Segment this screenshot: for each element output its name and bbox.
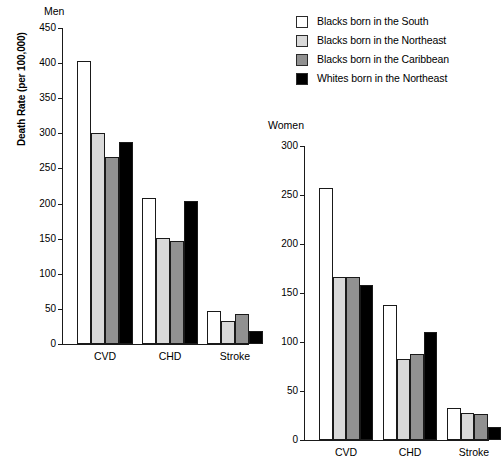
- y-axis-tick: [300, 440, 305, 441]
- y-axis-tick: [300, 146, 305, 147]
- y-axis-tick: [58, 133, 63, 134]
- chart-legend: Blacks born in the SouthBlacks born in t…: [296, 12, 496, 88]
- legend-item-label: Blacks born in the Caribbean: [317, 54, 449, 65]
- legend-item: Blacks born in the South: [296, 12, 496, 31]
- y-axis-tick-label: 400: [39, 58, 56, 68]
- bar-women-cvd-1: [333, 277, 347, 440]
- y-axis-tick-label: 250: [281, 190, 298, 200]
- legend-item: Blacks born in the Northeast: [296, 31, 496, 50]
- panel-title-men: Men: [44, 6, 64, 17]
- legend-swatch-white_ne: [296, 73, 308, 85]
- legend-swatch-black_ne: [296, 35, 308, 47]
- legend-swatch-caribbean: [296, 54, 308, 66]
- bar-women-stroke-1: [461, 413, 475, 440]
- bar-men-chd-0: [142, 198, 156, 344]
- legend-swatch-south: [296, 16, 308, 28]
- bar-women-cvd-2: [346, 277, 360, 440]
- legend-item-label: Blacks born in the South: [317, 16, 428, 27]
- bar-women-stroke-2: [474, 414, 488, 440]
- y-axis-tick-label: 0: [50, 339, 56, 349]
- y-axis-tick-label: 200: [39, 199, 56, 209]
- bar-women-stroke-3: [488, 427, 502, 440]
- x-axis-category-label: Stroke: [207, 351, 263, 362]
- bar-men-chd-1: [156, 238, 170, 344]
- y-axis-tick: [58, 309, 63, 310]
- y-axis-tick-label: 250: [39, 163, 56, 173]
- y-axis-tick-label: 0: [292, 435, 298, 445]
- bar-men-stroke-0: [207, 311, 221, 344]
- y-axis-tick: [58, 28, 63, 29]
- y-axis-tick-label: 200: [281, 239, 298, 249]
- bar-women-stroke-0: [447, 408, 461, 440]
- bar-group-stroke: Stroke: [447, 146, 501, 440]
- bar-men-cvd-0: [77, 61, 91, 344]
- y-axis-tick: [300, 244, 305, 245]
- bar-women-cvd-0: [319, 188, 333, 440]
- y-axis-tick: [58, 204, 63, 205]
- y-axis-tick-label: 150: [39, 234, 56, 244]
- y-axis-tick-label: 150: [281, 288, 298, 298]
- y-axis-tick-label: 50: [287, 386, 298, 396]
- y-axis-tick: [58, 168, 63, 169]
- y-axis-tick: [58, 344, 63, 345]
- x-axis-category-label: CVD: [319, 447, 373, 458]
- bar-men-stroke-2: [235, 314, 249, 344]
- y-axis-tick-label: 350: [39, 93, 56, 103]
- bar-group-cvd: CVD: [77, 28, 133, 344]
- bar-men-chd-3: [184, 201, 198, 344]
- bar-men-stroke-1: [221, 321, 235, 344]
- bar-group-chd: CHD: [142, 28, 198, 344]
- x-axis-category-label: Stroke: [447, 447, 501, 458]
- bar-women-chd-3: [424, 332, 438, 440]
- y-axis-tick-label: 100: [39, 269, 56, 279]
- x-axis-category-label: CHD: [383, 447, 437, 458]
- y-axis-label: Death Rate (per 100,000): [16, 0, 27, 146]
- y-axis-tick: [58, 239, 63, 240]
- panel-title-women: Women: [268, 120, 304, 131]
- legend-item: Blacks born in the Caribbean: [296, 50, 496, 69]
- legend-item: Whites born in the Northeast: [296, 69, 496, 88]
- bar-men-stroke-3: [249, 331, 263, 344]
- y-axis-tick: [300, 342, 305, 343]
- bar-women-chd-1: [397, 359, 411, 440]
- bar-group-stroke: Stroke: [207, 28, 263, 344]
- y-axis-tick: [58, 63, 63, 64]
- y-axis-tick-label: 100: [281, 337, 298, 347]
- legend-item-label: Blacks born in the Northeast: [317, 35, 446, 46]
- y-axis-tick-label: 300: [39, 128, 56, 138]
- y-axis-tick-label: 300: [281, 141, 298, 151]
- y-axis-tick: [300, 293, 305, 294]
- chart-panel-women: Women 050100150200250300CVDCHDStroke: [262, 120, 500, 374]
- y-axis-tick: [300, 391, 305, 392]
- x-axis-category-label: CVD: [77, 351, 133, 362]
- x-axis-category-label: CHD: [142, 351, 198, 362]
- chart-panel-men: Men Death Rate (per 100,000) 05010015020…: [18, 6, 252, 374]
- bar-women-chd-2: [410, 354, 424, 440]
- y-axis-tick: [58, 274, 63, 275]
- bar-men-cvd-3: [119, 142, 133, 344]
- y-axis-tick: [58, 98, 63, 99]
- legend-item-label: Whites born in the Northeast: [317, 73, 447, 84]
- bar-group-cvd: CVD: [319, 146, 373, 440]
- bar-group-chd: CHD: [383, 146, 437, 440]
- bar-women-chd-0: [383, 305, 397, 440]
- bar-men-cvd-2: [105, 157, 119, 344]
- y-axis-tick: [300, 195, 305, 196]
- y-axis-tick-label: 50: [45, 304, 56, 314]
- bar-men-cvd-1: [91, 133, 105, 344]
- bar-women-cvd-3: [360, 285, 374, 440]
- plot-area-women: 050100150200250300CVDCHDStroke: [304, 146, 489, 441]
- bar-men-chd-2: [170, 241, 184, 344]
- y-axis-tick-label: 450: [39, 23, 56, 33]
- plot-area-men: 050100150200250300350400450CVDCHDStroke: [62, 28, 249, 345]
